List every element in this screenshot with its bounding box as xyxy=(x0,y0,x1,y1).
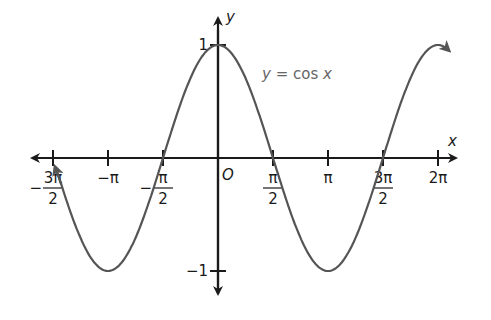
svg-text:−: − xyxy=(139,179,152,197)
y-axis-label: y xyxy=(225,8,236,26)
function-annotation: y = cos x xyxy=(261,65,332,83)
x-tick-label: π xyxy=(323,169,332,187)
x-tick-label: π2 xyxy=(263,169,283,208)
origin-label: O xyxy=(222,166,234,184)
y-tick-label: −1 xyxy=(186,262,208,280)
svg-text:2: 2 xyxy=(378,190,388,208)
x-axis-label: x xyxy=(447,132,457,150)
svg-text:2: 2 xyxy=(268,190,278,208)
cosine-graph: 3π2−−ππ2−π2π3π22π 1−1 x y O y = cos x xyxy=(0,0,491,320)
x-tick-label: π2− xyxy=(139,169,173,208)
x-tick-label: 2π xyxy=(429,169,448,187)
svg-text:2: 2 xyxy=(48,190,58,208)
x-tick-label: −π xyxy=(97,169,119,187)
x-tick-label: 3π2 xyxy=(373,169,393,208)
svg-text:−: − xyxy=(29,179,42,197)
svg-text:2: 2 xyxy=(158,190,168,208)
